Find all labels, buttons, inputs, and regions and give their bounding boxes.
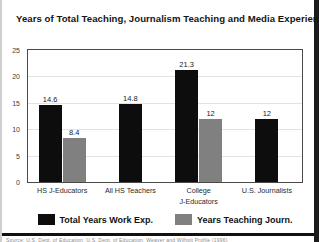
x-category-label-line: All HS Teachers xyxy=(96,186,164,197)
legend-item: Total Years Work Exp. xyxy=(38,214,154,225)
bar-group: 21.312 xyxy=(165,50,233,182)
y-tick-label: 5 xyxy=(16,152,20,159)
x-category-label: CollegeJ-Educators xyxy=(165,186,233,207)
bar: 12 xyxy=(255,119,278,182)
bars-layer: 14.68.414.821.31212 xyxy=(28,50,301,182)
bar-group: 14.68.4 xyxy=(28,50,96,182)
x-category-label-line: HS J-Educators xyxy=(28,186,96,197)
legend-swatch xyxy=(175,214,192,225)
x-category-label: U.S. Journalists xyxy=(233,186,301,197)
chart-title: Years of Total Teaching, Journalism Teac… xyxy=(16,13,308,24)
x-category-label: All HS Teachers xyxy=(96,186,164,197)
bar-value-label: 12 xyxy=(263,109,271,118)
bar-value-label: 12 xyxy=(206,109,214,118)
x-category-label: HS J-Educators xyxy=(28,186,96,197)
bar: 14.8 xyxy=(119,104,142,182)
x-axis-category-labels: HS J-EducatorsAll HS TeachersCollegeJ-Ed… xyxy=(28,186,301,212)
legend-swatch xyxy=(38,214,55,225)
y-tick-label: 25 xyxy=(12,47,20,54)
bar: 8.4 xyxy=(63,138,86,182)
bar-value-label: 14.6 xyxy=(43,95,58,104)
chart-figure: Years of Total Teaching, Journalism Teac… xyxy=(0,0,319,242)
bar-value-label: 8.4 xyxy=(69,128,79,137)
footnote-text: Source: U.S. Dept. of Education, U.S. De… xyxy=(6,237,312,242)
y-axis-tick-labels: 0510152025 xyxy=(0,49,24,183)
bar-value-label: 14.8 xyxy=(123,94,138,103)
bar: 14.6 xyxy=(39,105,62,182)
y-tick-label: 15 xyxy=(12,99,20,106)
bar-group: 12 xyxy=(233,50,301,182)
x-category-label-line: U.S. Journalists xyxy=(233,186,301,197)
y-tick-label: 10 xyxy=(12,126,20,133)
bottom-rule xyxy=(2,233,314,236)
legend-item: Years Teaching Journ. xyxy=(175,214,292,225)
chart-legend: Total Years Work Exp.Years Teaching Jour… xyxy=(27,211,303,228)
x-category-label-line: J-Educators xyxy=(165,197,233,208)
y-tick-label: 0 xyxy=(16,179,20,186)
bar: 21.3 xyxy=(175,70,198,182)
scan-edge-right xyxy=(314,0,319,242)
legend-label: Total Years Work Exp. xyxy=(60,215,154,225)
bar-value-label: 21.3 xyxy=(179,60,194,69)
legend-label: Years Teaching Journ. xyxy=(197,215,292,225)
x-category-label-line: College xyxy=(165,186,233,197)
bar-group: 14.8 xyxy=(96,50,164,182)
y-tick-label: 20 xyxy=(12,73,20,80)
bar: 12 xyxy=(199,119,222,182)
